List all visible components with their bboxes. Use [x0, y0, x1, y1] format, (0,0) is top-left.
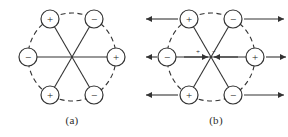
charge-sign: + [113, 51, 119, 63]
charge-bottom-left: + [180, 86, 198, 104]
caption-a: (a) [0, 114, 144, 126]
charge-sign: + [186, 13, 192, 25]
charge-top-left: + [180, 10, 198, 28]
charge-sign: + [47, 89, 53, 101]
charge-right: + [246, 48, 264, 66]
charge-sign: − [91, 13, 97, 25]
charge-sign: + [47, 13, 53, 25]
charge-left: − [19, 48, 37, 66]
charge-top-right: − [224, 10, 242, 28]
charge-bottom-right: − [85, 86, 103, 104]
charge-left: − [158, 48, 176, 66]
charge-sign: − [25, 51, 31, 63]
charge-sign: + [186, 89, 192, 101]
panel-b: +−+−+−+− (b) [144, 0, 288, 137]
charge-top-left: + [41, 10, 59, 28]
charge-sign: − [164, 51, 170, 63]
charge-sign: − [91, 89, 97, 101]
charge-sign: − [230, 89, 236, 101]
charge-bottom-right: − [224, 86, 242, 104]
charge-sign: − [230, 13, 236, 25]
panel-a: +−+−+− (a) [0, 0, 144, 137]
center-plus-label: + [196, 48, 200, 56]
caption-b: (b) [144, 114, 288, 126]
charge-right: + [107, 48, 125, 66]
charge-bottom-left: + [41, 86, 59, 104]
charge-top-right: − [85, 10, 103, 28]
charge-sign: + [252, 51, 258, 63]
figure-root: +−+−+− (a) +−+−+−+− (b) [0, 0, 288, 137]
center-minus-label: − [212, 48, 216, 56]
